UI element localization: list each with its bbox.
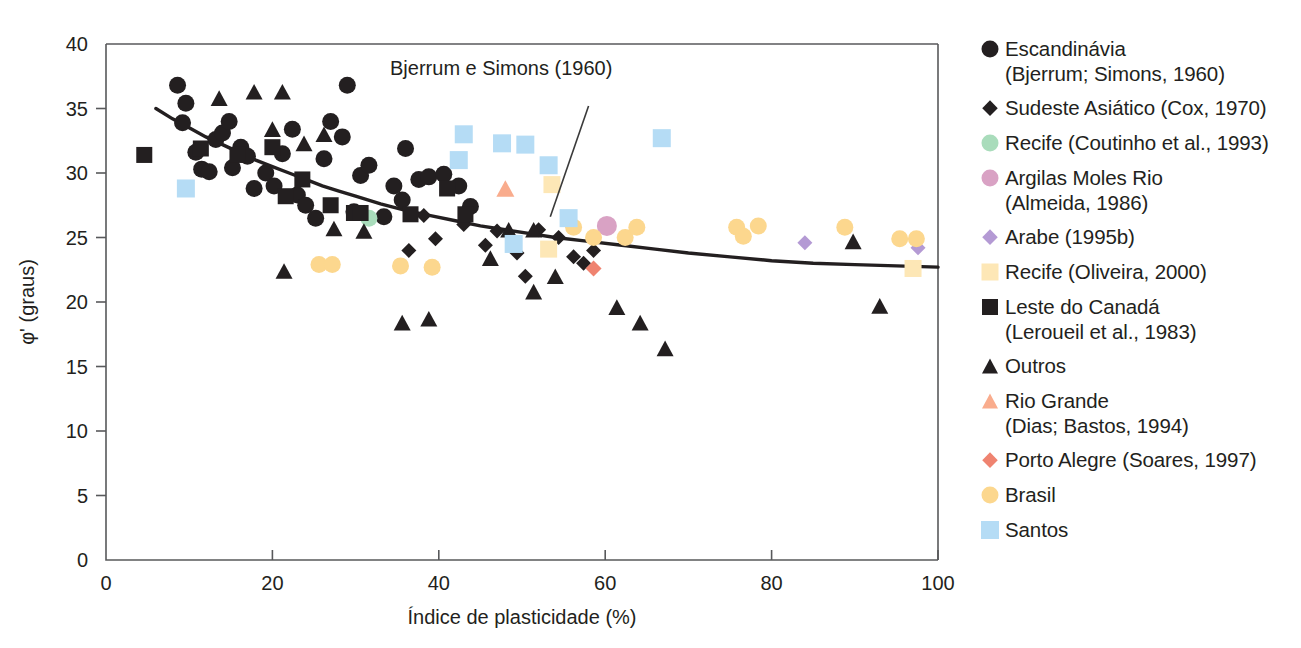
data-point-marker	[908, 230, 925, 247]
data-point-marker	[278, 188, 294, 204]
data-point-marker	[750, 217, 767, 234]
data-point-marker	[229, 147, 245, 163]
legend-item-label: Santos	[1005, 517, 1068, 542]
legend-marker-circle-icon	[975, 165, 1005, 191]
data-point-marker	[540, 156, 558, 174]
x-tick-label: 20	[261, 572, 283, 594]
data-point-marker	[424, 259, 441, 276]
legend-marker-square-icon	[975, 259, 1005, 285]
data-point-marker	[608, 299, 625, 315]
data-point-marker	[294, 171, 310, 187]
legend-item[interactable]: Arabe (1995b)	[975, 224, 1301, 250]
data-point-marker	[392, 257, 409, 274]
legend-item-label: Escandinávia (Bjerrum; Simons, 1960)	[1005, 36, 1225, 86]
data-point-marker	[360, 157, 377, 174]
data-point-marker	[735, 228, 752, 245]
data-point-marker	[401, 243, 416, 258]
legend-item[interactable]: Recife (Oliveira, 2000)	[975, 259, 1301, 285]
x-tick-label: 60	[594, 572, 616, 594]
legend-marker-square-icon	[975, 517, 1005, 543]
data-point-marker	[478, 238, 493, 253]
legend-item[interactable]: Porto Alegre (Soares, 1997)	[975, 447, 1301, 473]
legend-marker-square-icon	[975, 294, 1005, 320]
legend-marker-triangle-icon	[975, 353, 1005, 379]
legend-item[interactable]: Recife (Coutinho et al., 1993)	[975, 130, 1301, 156]
data-point-marker	[560, 209, 578, 227]
y-tick-label: 35	[66, 98, 88, 120]
legend-item-label: Argilas Moles Rio (Almeida, 1986)	[1005, 165, 1163, 215]
legend-marker-diamond-icon	[975, 95, 1005, 121]
data-point-marker	[871, 298, 888, 314]
legend-item[interactable]: Brasil	[975, 482, 1301, 508]
data-point-marker	[905, 260, 922, 277]
data-point-marker	[323, 197, 339, 213]
data-point-marker	[420, 311, 437, 327]
data-point-marker	[891, 230, 908, 247]
data-point-marker	[284, 121, 301, 138]
data-point-marker	[518, 269, 533, 284]
data-point-marker	[169, 77, 186, 94]
data-point-marker	[264, 121, 281, 137]
figure-root: 0510152025303540020406080100 Bjerrum e S…	[0, 0, 1301, 648]
data-point-marker	[547, 268, 564, 284]
data-point-marker	[496, 180, 514, 197]
data-point-marker	[177, 95, 194, 112]
data-point-marker	[201, 163, 218, 180]
data-point-marker	[420, 168, 437, 185]
data-point-marker	[505, 235, 523, 253]
legend-item[interactable]: Leste do Canadá (Leroueil et al., 1983)	[975, 294, 1301, 344]
legend-item-label: Rio Grande (Dias; Bastos, 1994)	[1005, 388, 1189, 438]
data-point-marker	[493, 134, 511, 152]
legend-item[interactable]: Rio Grande (Dias; Bastos, 1994)	[975, 388, 1301, 438]
legend-item-label: Sudeste Asiático (Cox, 1970)	[1005, 95, 1267, 120]
x-tick-label: 100	[921, 572, 954, 594]
legend-marker-triangle-icon	[975, 388, 1005, 414]
data-point-marker	[394, 315, 411, 331]
x-tick-label: 40	[428, 572, 450, 594]
legend-item-label: Outros	[1005, 353, 1066, 378]
legend-item[interactable]: Outros	[975, 353, 1301, 379]
data-point-marker	[543, 176, 560, 193]
y-tick-label: 0	[77, 549, 88, 571]
data-point-marker	[211, 90, 228, 106]
data-point-marker	[177, 179, 195, 197]
y-tick-label: 30	[66, 162, 88, 184]
data-point-marker	[397, 140, 414, 157]
legend-item[interactable]: Sudeste Asiático (Cox, 1970)	[975, 95, 1301, 121]
data-point-marker	[136, 147, 152, 163]
tick-labels: 0510152025303540020406080100	[66, 33, 955, 594]
data-point-marker	[246, 84, 263, 100]
legend-marker-circle-icon	[975, 36, 1005, 62]
legend-marker-diamond-icon	[975, 447, 1005, 473]
data-point-marker	[274, 84, 291, 100]
data-point-marker	[339, 77, 356, 94]
legend-item-label: Recife (Coutinho et al., 1993)	[1005, 130, 1269, 155]
data-point-marker	[450, 151, 468, 169]
legend-item-label: Brasil	[1005, 482, 1056, 507]
data-point-marker	[657, 341, 674, 357]
data-point-marker	[416, 208, 431, 223]
data-point-marker	[457, 206, 473, 222]
x-tick-label: 0	[100, 572, 111, 594]
data-point-marker	[394, 192, 411, 209]
data-point-marker	[324, 256, 341, 273]
legend-item-label: Porto Alegre (Soares, 1997)	[1005, 447, 1256, 472]
data-point-marker	[653, 129, 671, 147]
data-point-marker	[435, 166, 452, 183]
data-point-marker	[428, 231, 443, 246]
data-point-marker	[540, 241, 557, 258]
legend-item[interactable]: Escandinávia (Bjerrum; Simons, 1960)	[975, 36, 1301, 86]
data-points	[136, 77, 925, 356]
data-point-marker	[482, 250, 499, 266]
legend-item[interactable]: Argilas Moles Rio (Almeida, 1986)	[975, 165, 1301, 215]
x-tick-label: 80	[760, 572, 782, 594]
series-group	[310, 217, 924, 275]
series-group	[496, 180, 514, 197]
legend-item-label: Arabe (1995b)	[1005, 224, 1135, 249]
data-point-marker	[334, 128, 351, 145]
data-point-marker	[307, 210, 324, 227]
annotation-label: Bjerrum e Simons (1960)	[390, 57, 612, 79]
data-point-marker	[845, 234, 862, 250]
legend-item[interactable]: Santos	[975, 517, 1301, 543]
data-point-marker	[525, 284, 542, 300]
